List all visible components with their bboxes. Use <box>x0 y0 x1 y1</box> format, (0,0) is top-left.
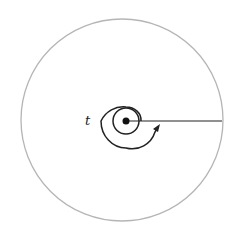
outer-circle <box>21 19 223 221</box>
center-dot <box>123 118 130 125</box>
arrowhead-icon <box>153 124 160 132</box>
spiral-outer-arc <box>101 107 158 149</box>
label-t: t <box>85 113 91 128</box>
diagram-canvas: t <box>0 0 246 244</box>
